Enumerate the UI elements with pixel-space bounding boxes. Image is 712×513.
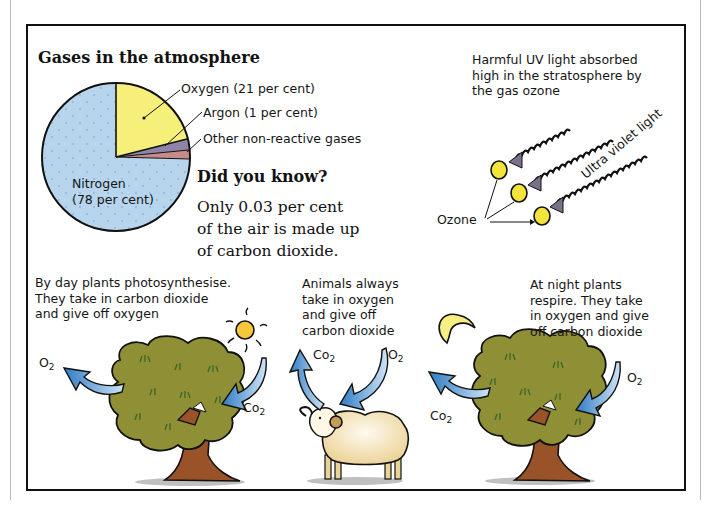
caption-line: By day plants photosynthesise.: [35, 275, 231, 291]
caption-line: Harmful UV light absorbed: [472, 52, 642, 68]
caption-line: At night plants: [530, 277, 649, 293]
moon-icon: [439, 314, 475, 343]
formula-text: O: [388, 347, 398, 362]
did-you-know-line: Only 0.03 per cent: [197, 196, 360, 218]
formula-subscript: 2: [259, 407, 265, 417]
formula-subscript: 2: [637, 377, 643, 387]
day-tree-illustration: [64, 308, 267, 486]
day-plants-caption: By day plants photosynthesise. They take…: [35, 275, 231, 322]
caption-line: and give off oxygen: [35, 306, 231, 322]
pie-label-nitrogen-name: Nitrogen: [72, 176, 154, 192]
pie-label-nitrogen: Nitrogen (78 per cent): [72, 176, 154, 207]
sheep-illustration: [290, 348, 408, 485]
animals-co2-label: Co2: [313, 347, 335, 368]
animals-o2-label: O2: [388, 347, 404, 368]
sun-icon: [236, 321, 254, 339]
formula-text: Co: [243, 400, 259, 415]
animals-caption: Animals always take in oxygen and give o…: [302, 276, 399, 338]
night-o2-label: O2: [627, 370, 643, 391]
night-plants-caption: At night plants respire. They take in ox…: [530, 277, 649, 339]
formula-text: Co: [313, 347, 329, 362]
did-you-know-heading: Did you know?: [197, 167, 327, 186]
day-o2-label: O2: [39, 355, 55, 376]
pie-label-oxygen: Oxygen (21 per cent): [181, 81, 315, 97]
pie-chart: [42, 83, 202, 233]
formula-text: Co: [430, 408, 446, 423]
did-you-know-line: of carbon dioxide.: [197, 240, 360, 262]
caption-line: high in the stratosphere by: [472, 68, 642, 84]
pie-label-nitrogen-percent: (78 per cent): [72, 192, 154, 208]
formula-subscript: 2: [49, 362, 55, 372]
caption-line: carbon dioxide: [302, 323, 399, 339]
night-co2-label: Co2: [430, 408, 452, 429]
caption-line: They take in carbon dioxide: [35, 291, 231, 307]
caption-line: take in oxygen: [302, 292, 399, 308]
pie-chart-title: Gases in the atmosphere: [38, 48, 260, 67]
uv-wave-1: [516, 130, 570, 158]
night-tree-illustration: [429, 314, 620, 485]
formula-text: O: [39, 355, 49, 370]
pie-label-other: Other non-reactive gases: [203, 131, 361, 147]
caption-line: respire. They take: [530, 293, 649, 309]
tree-canopy: [109, 336, 244, 450]
caption-line: Animals always: [302, 276, 399, 292]
did-you-know-line: of the air is made up: [197, 218, 360, 240]
ozone-caption: Harmful UV light absorbed high in the st…: [472, 52, 642, 99]
ozone-label: Ozone: [437, 212, 477, 228]
o2-in-arrow: [340, 348, 388, 410]
ozone-molecule-3: [534, 207, 550, 225]
caption-line: the gas ozone: [472, 83, 642, 99]
caption-line: off carbon dioxide: [530, 324, 649, 340]
formula-subscript: 2: [398, 354, 404, 364]
uv-arrowhead-1: [509, 152, 522, 168]
caption-line: and give off: [302, 307, 399, 323]
tree-canopy: [472, 329, 606, 446]
did-you-know-body: Only 0.03 per cent of the air is made up…: [197, 196, 360, 262]
pie-label-argon: Argon (1 per cent): [203, 105, 318, 121]
formula-text: O: [627, 370, 637, 385]
ozone-molecule-1: [491, 161, 507, 179]
caption-line: in oxygen and give: [530, 308, 649, 324]
formula-subscript: 2: [446, 415, 452, 425]
formula-subscript: 2: [329, 354, 335, 364]
ozone-molecule-2: [511, 184, 527, 202]
uv-arrowhead-2: [528, 175, 541, 191]
day-co2-label: Co2: [243, 400, 265, 421]
uv-arrowhead-3: [550, 197, 563, 213]
